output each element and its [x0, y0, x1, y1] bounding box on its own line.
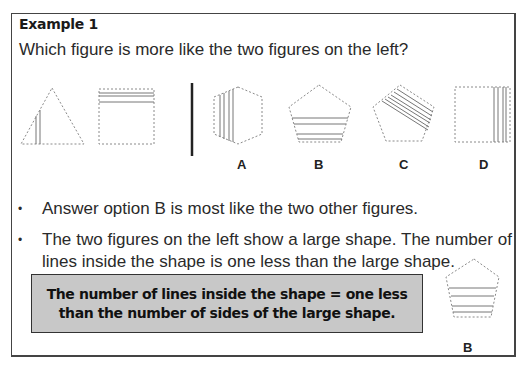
option-c-label: C	[399, 157, 408, 172]
bullet-text: Answer option B is most like the two oth…	[42, 198, 512, 220]
example-square-figure	[99, 89, 154, 144]
bullet-dot: •	[18, 198, 22, 220]
rule-text: The number of lines inside the shape = o…	[42, 285, 412, 323]
example-triangle-figure	[21, 88, 84, 144]
option-d-label: D	[479, 157, 488, 172]
option-a-label: A	[237, 157, 246, 172]
bullet-dot: •	[18, 229, 22, 251]
rule-box: The number of lines inside the shape = o…	[31, 274, 423, 333]
answer-label: B	[463, 340, 472, 355]
option-d-square-figure	[455, 87, 510, 142]
option-a-hexagon-figure	[214, 87, 262, 144]
bullet-text: The two figures on the left show a large…	[42, 229, 512, 273]
option-b-label: B	[314, 157, 323, 172]
option-b-pentagon-figure	[289, 85, 351, 142]
